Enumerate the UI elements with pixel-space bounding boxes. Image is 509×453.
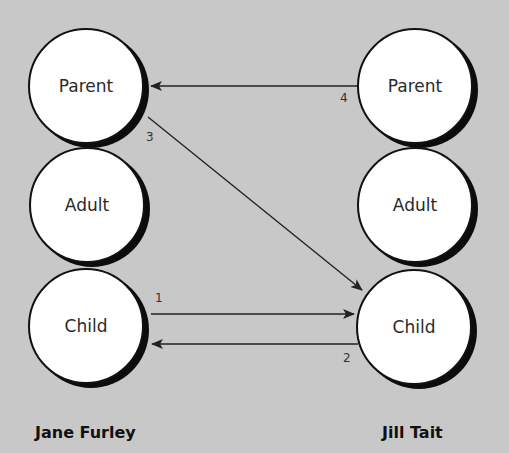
jane-child-state: Child [28,268,144,384]
arrow-3 [148,117,362,290]
transactional-analysis-diagram: Parent Adult Child Parent Adult Child 3 … [0,0,509,453]
state-label: Adult [65,195,109,215]
state-label: Child [65,316,108,336]
transaction-label-3: 3 [146,130,154,144]
person-name-right: Jill Tait [382,423,443,442]
state-label: Parent [388,76,442,96]
transaction-label-2: 2 [343,351,351,365]
state-label: Child [393,317,436,337]
jane-parent-state: Parent [28,28,144,144]
state-label: Adult [393,195,437,215]
transaction-label-1: 1 [155,291,163,305]
jill-child-state: Child [356,269,472,385]
jill-adult-state: Adult [357,147,473,263]
jane-adult-state: Adult [29,147,145,263]
jill-parent-state: Parent [357,28,473,144]
person-name-left: Jane Furley [35,423,136,442]
state-label: Parent [59,76,113,96]
transaction-label-4: 4 [340,91,348,105]
